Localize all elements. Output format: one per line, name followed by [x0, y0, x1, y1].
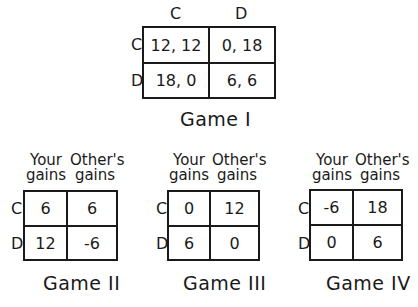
- game-1-col-header-c: C: [170, 6, 181, 22]
- game-4-col-header-your-gains: Your gains: [311, 153, 353, 183]
- game-2-cell-c-your: 6: [25, 192, 68, 227]
- game-2-cell-c-other: 6: [68, 192, 116, 227]
- game-3-row-header-c: C: [156, 201, 167, 217]
- game-3-header-gains: gains: [168, 168, 210, 183]
- game-2-payoff-matrix: 6 6 12 -6: [23, 190, 118, 261]
- game-1-payoff-matrix: 12, 12 0, 18 18, 0 6, 6: [142, 26, 276, 99]
- game-2-title: Game II: [43, 274, 120, 293]
- game-4-title: Game IV: [326, 274, 411, 293]
- game-1-cell-cc: 12, 12: [144, 28, 210, 64]
- game-4-header-gains: gains: [311, 168, 353, 183]
- game-2-cell-d-your: 12: [25, 227, 68, 259]
- game-3-cell-d-your: 6: [169, 227, 211, 259]
- game-4-cell-c-your: -6: [311, 191, 354, 226]
- game-4-cell-d-your: 0: [311, 226, 354, 259]
- game-1-cell-dc: 18, 0: [144, 64, 210, 97]
- game-1-cell-dd: 6, 6: [210, 64, 274, 97]
- game-2-col-header-your-gains: Your gains: [24, 153, 68, 183]
- game-3-col-header-your-gains: Your gains: [168, 153, 210, 183]
- game-2-cell-d-other: -6: [68, 227, 116, 259]
- game-4-col-header-others-gains: Other's gains: [355, 153, 405, 183]
- game-4-payoff-matrix: -6 18 0 6: [309, 189, 403, 261]
- game-4-header-gains: gains: [355, 168, 405, 183]
- game-2-row-header-d: D: [11, 236, 23, 252]
- game-3-cell-c-other: 12: [211, 192, 258, 227]
- game-1-col-header-d: D: [235, 6, 247, 22]
- game-3-cell-c-your: 0: [169, 192, 211, 227]
- game-1-row-header-c: C: [131, 37, 142, 53]
- game-2-header-gains: gains: [24, 168, 68, 183]
- game-3-header-gains: gains: [212, 168, 262, 183]
- game-3-cell-d-other: 0: [211, 227, 258, 259]
- game-3-title: Game III: [183, 274, 266, 293]
- game-1-cell-cd: 0, 18: [210, 28, 274, 64]
- game-1-title: Game I: [180, 110, 251, 129]
- game-2-header-gains: gains: [70, 168, 120, 183]
- game-4-cell-c-other: 18: [354, 191, 401, 226]
- game-2-col-header-others-gains: Other's gains: [70, 153, 120, 183]
- game-4-cell-d-other: 6: [354, 226, 401, 259]
- game-3-col-header-others-gains: Other's gains: [212, 153, 262, 183]
- game-4-row-header-c: C: [298, 201, 309, 217]
- game-3-payoff-matrix: 0 12 6 0: [167, 190, 260, 261]
- game-2-row-header-c: C: [11, 201, 22, 217]
